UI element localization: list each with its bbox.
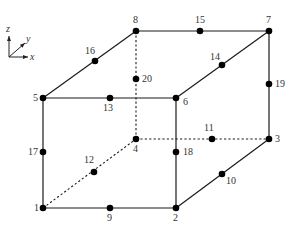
node-label-17: 17 bbox=[28, 146, 38, 157]
node-label-15: 15 bbox=[195, 14, 205, 25]
node-18-dot-icon bbox=[173, 149, 180, 156]
hidden-edge-1-4 bbox=[43, 139, 136, 208]
node-label-10: 10 bbox=[226, 175, 236, 186]
node-19-dot-icon bbox=[266, 81, 273, 88]
node-20-dot-icon bbox=[133, 76, 140, 83]
node-9-dot-icon bbox=[107, 205, 114, 212]
edge-8-5 bbox=[43, 31, 136, 98]
node-10-dot-icon bbox=[219, 171, 226, 178]
node-label-5: 5 bbox=[33, 92, 38, 103]
node-17-dot-icon bbox=[40, 149, 47, 156]
node-labels: 1234567891011121314151617181920 bbox=[28, 14, 285, 223]
node-label-9: 9 bbox=[107, 212, 112, 223]
node-label-11: 11 bbox=[204, 122, 214, 133]
node-6-dot-icon bbox=[173, 95, 180, 102]
node-2-dot-icon bbox=[173, 205, 180, 212]
node-4-dot-icon bbox=[133, 136, 140, 143]
node-12-dot-icon bbox=[91, 169, 98, 176]
node-11-dot-icon bbox=[209, 136, 216, 143]
node-8-dot-icon bbox=[133, 28, 140, 35]
hex20-element-diagram: x y z 1234567891011121314151617181920 bbox=[0, 0, 293, 236]
node-label-8: 8 bbox=[133, 14, 138, 25]
node-15-dot-icon bbox=[197, 28, 204, 35]
node-label-4: 4 bbox=[133, 143, 138, 154]
node-label-7: 7 bbox=[266, 14, 271, 25]
node-label-6: 6 bbox=[183, 96, 188, 107]
node-label-16: 16 bbox=[85, 45, 95, 56]
element-nodes bbox=[40, 28, 273, 212]
node-label-1: 1 bbox=[34, 202, 39, 213]
y-axis-label: y bbox=[25, 33, 31, 44]
node-3-dot-icon bbox=[266, 136, 273, 143]
node-label-14: 14 bbox=[210, 51, 220, 62]
z-axis-label: z bbox=[5, 23, 10, 34]
node-label-18: 18 bbox=[183, 146, 193, 157]
node-label-13: 13 bbox=[103, 102, 113, 113]
z-arrowhead-icon bbox=[7, 36, 11, 41]
node-14-dot-icon bbox=[219, 62, 226, 69]
node-label-20: 20 bbox=[142, 73, 152, 84]
node-5-dot-icon bbox=[40, 95, 47, 102]
node-label-3: 3 bbox=[275, 133, 280, 144]
node-label-19: 19 bbox=[275, 78, 285, 89]
x-axis-label: x bbox=[29, 51, 35, 62]
node-label-2: 2 bbox=[173, 212, 178, 223]
node-13-dot-icon bbox=[107, 95, 114, 102]
node-1-dot-icon bbox=[40, 205, 47, 212]
node-7-dot-icon bbox=[266, 28, 273, 35]
coordinate-axes: x y z bbox=[5, 23, 35, 62]
node-16-dot-icon bbox=[92, 58, 99, 65]
x-arrowhead-icon bbox=[23, 55, 28, 59]
node-label-12: 12 bbox=[84, 154, 94, 165]
